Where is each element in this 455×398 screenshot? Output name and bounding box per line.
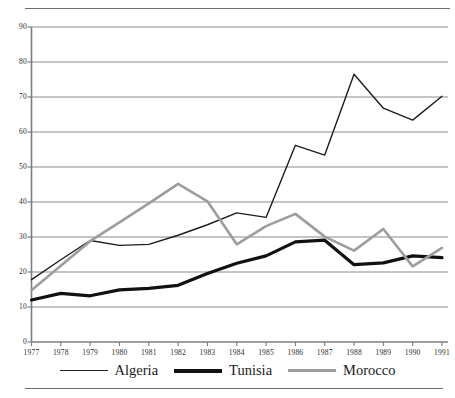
legend-item-tunisia: Tunisia bbox=[174, 362, 272, 379]
x-tick-label-1988: 1988 bbox=[339, 348, 369, 357]
legend-label-algeria: Algeria bbox=[115, 362, 158, 379]
legend-item-morocco: Morocco bbox=[288, 362, 395, 379]
y-tick-label-60: 60 bbox=[6, 127, 27, 136]
y-tick-label-80: 80 bbox=[6, 57, 27, 66]
x-tick-label-1986: 1986 bbox=[280, 348, 310, 357]
legend-label-tunisia: Tunisia bbox=[229, 362, 272, 379]
y-tick-label-90: 90 bbox=[6, 22, 27, 31]
series-line-algeria bbox=[32, 74, 443, 279]
plot-area bbox=[0, 0, 455, 398]
y-tick-label-50: 50 bbox=[6, 162, 27, 171]
thick-black-line-swatch bbox=[174, 369, 222, 373]
x-tick-label-1978: 1978 bbox=[46, 348, 76, 357]
x-tick-label-1984: 1984 bbox=[222, 348, 252, 357]
x-tick-label-1989: 1989 bbox=[368, 348, 398, 357]
x-tick-label-1990: 1990 bbox=[398, 348, 428, 357]
y-tick-label-30: 30 bbox=[6, 232, 27, 241]
x-tick-label-1981: 1981 bbox=[134, 348, 164, 357]
series-line-tunisia bbox=[32, 240, 443, 300]
chart-canvas bbox=[0, 0, 455, 398]
x-tick-label-1985: 1985 bbox=[251, 348, 281, 357]
gray-line-swatch bbox=[288, 369, 336, 372]
y-tick-label-10: 10 bbox=[6, 302, 27, 311]
y-tick-label-70: 70 bbox=[6, 92, 27, 101]
x-tick-label-1977: 1977 bbox=[17, 348, 47, 357]
x-tick-label-1982: 1982 bbox=[163, 348, 193, 357]
chart-legend: Algeria Tunisia Morocco bbox=[0, 362, 455, 379]
y-tick-label-40: 40 bbox=[6, 197, 27, 206]
x-tick-label-1983: 1983 bbox=[192, 348, 222, 357]
x-tick-label-1991: 1991 bbox=[427, 348, 455, 357]
legend-item-algeria: Algeria bbox=[60, 362, 158, 379]
y-tick-label-0: 0 bbox=[6, 337, 27, 346]
line-chart-figure: 0102030405060708090 19771978197919801981… bbox=[0, 0, 455, 398]
x-tick-label-1980: 1980 bbox=[104, 348, 134, 357]
legend-label-morocco: Morocco bbox=[343, 362, 395, 379]
x-tick-label-1979: 1979 bbox=[75, 348, 105, 357]
x-tick-label-1987: 1987 bbox=[310, 348, 340, 357]
thin-black-line-swatch bbox=[60, 370, 108, 371]
y-tick-label-20: 20 bbox=[6, 267, 27, 276]
data-series-group bbox=[32, 74, 443, 300]
